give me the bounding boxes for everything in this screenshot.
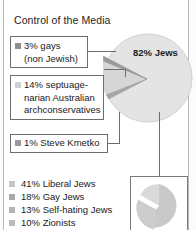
- frame-left-rule: [3, 0, 4, 230]
- legend-item[interactable]: 13% Self-hating Jews: [9, 203, 129, 216]
- connector-archconservatives-h: [104, 69, 126, 70]
- legend-label-liberal-jews: 41% Liberal Jews: [21, 178, 95, 189]
- legend-item[interactable]: 10% Zionists: [9, 216, 129, 229]
- callout-archconservatives[interactable]: 14% septuage- narian Australian archcons…: [10, 75, 104, 120]
- callout-steve-kmetko-line1-row: 1% Steve Kmetko: [15, 137, 103, 150]
- callout-steve-kmetko-line1: 1% Steve Kmetko: [24, 137, 100, 148]
- legend-label-self-hating-jews: 13% Self-hating Jews: [21, 204, 112, 215]
- connector-gays: [88, 51, 116, 52]
- legend-label-zionists: 10% Zionists: [21, 217, 75, 228]
- sub-pie-panel: [130, 176, 188, 230]
- callout-gays-line1-row: 3% gays: [15, 40, 83, 53]
- callout-gays-swatch: [15, 43, 21, 49]
- callout-steve-kmetko[interactable]: 1% Steve Kmetko: [10, 134, 108, 153]
- legend-swatch-liberal-jews: [9, 181, 15, 187]
- page-title: Control of the Media: [14, 14, 111, 26]
- legend-item[interactable]: 18% Gay Jews: [9, 190, 129, 203]
- legend-label-gay-jews: 18% Gay Jews: [21, 191, 84, 202]
- connector-steve-v: [119, 112, 120, 144]
- legend-swatch-self-hating-jews: [9, 207, 15, 213]
- legend-swatch-gay-jews: [9, 194, 15, 200]
- callout-archconservatives-swatch: [15, 82, 21, 88]
- sub-pie-svg: [134, 181, 184, 230]
- callout-archconservatives-line1-row: 14% septuage-: [15, 79, 99, 92]
- legend-item[interactable]: 41% Liberal Jews: [9, 177, 129, 190]
- callout-archconservatives-line3: archconservatives: [15, 104, 99, 117]
- callout-archconservatives-line2: narian Australian: [15, 92, 99, 105]
- infographic-root: Control of the Media 82% Jews 3% gays (n…: [0, 0, 196, 230]
- connector-subpie: [159, 112, 160, 176]
- callout-gays[interactable]: 3% gays (non Jewish): [10, 36, 88, 68]
- callout-archconservatives-line1: 14% septuage-: [24, 79, 88, 90]
- pie-primary-label: 82% Jews: [133, 47, 178, 58]
- callout-gays-line1: 3% gays: [24, 40, 60, 51]
- sub-pie-legend: 41% Liberal Jews 18% Gay Jews 13% Self-h…: [9, 177, 129, 229]
- callout-steve-kmetko-swatch: [15, 140, 21, 146]
- connector-archconservatives-v: [125, 69, 126, 77]
- legend-swatch-zionists: [9, 220, 15, 226]
- callout-gays-line2: (non Jewish): [15, 53, 83, 66]
